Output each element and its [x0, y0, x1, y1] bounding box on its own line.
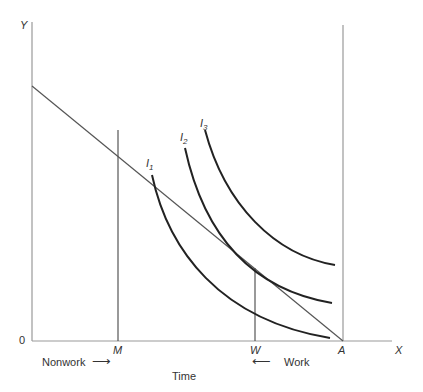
- right-arrow-icon: ⟶: [92, 355, 111, 368]
- indifference-curve-3: [205, 130, 335, 265]
- curve-label-i1: I1: [146, 158, 154, 172]
- work-label: Work: [284, 357, 309, 368]
- left-arrow-icon: ⟵: [252, 355, 271, 368]
- y-axis-label: Y: [20, 20, 27, 31]
- x-axis-label: X: [395, 345, 402, 356]
- point-m-label: M: [113, 345, 122, 356]
- origin-label: 0: [19, 335, 25, 346]
- curve-label-i3: I3: [200, 118, 208, 132]
- budget-line: [32, 86, 343, 341]
- x-axis-title: Time: [172, 371, 196, 382]
- point-a-label: A: [338, 345, 345, 356]
- curve-label-i2: I2: [180, 132, 188, 146]
- nonwork-label: Nonwork: [42, 357, 85, 368]
- diagram-canvas: [0, 0, 423, 392]
